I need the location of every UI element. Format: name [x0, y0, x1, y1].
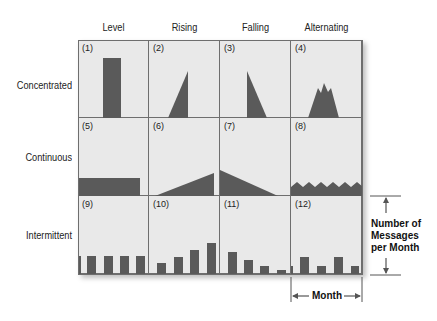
- y-axis-label-line2: Messages: [371, 230, 421, 242]
- annotation-arrows: [0, 0, 437, 321]
- x-axis-label: Month: [312, 290, 342, 302]
- y-axis-label: Number of Messages per Month: [371, 218, 421, 254]
- y-axis-label-line1: Number of: [371, 218, 421, 230]
- y-axis-label-line3: per Month: [371, 242, 421, 254]
